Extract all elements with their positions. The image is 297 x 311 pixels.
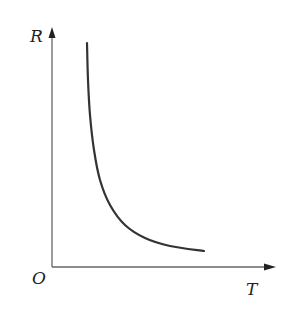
x-axis-label: T — [246, 279, 259, 299]
y-axis-arrow-icon — [49, 27, 56, 38]
r-t-curve — [87, 43, 204, 251]
origin-label: O — [32, 268, 46, 288]
chart: R O T — [0, 0, 297, 311]
y-axis-label: R — [29, 26, 43, 46]
x-axis-arrow-icon — [264, 264, 276, 271]
